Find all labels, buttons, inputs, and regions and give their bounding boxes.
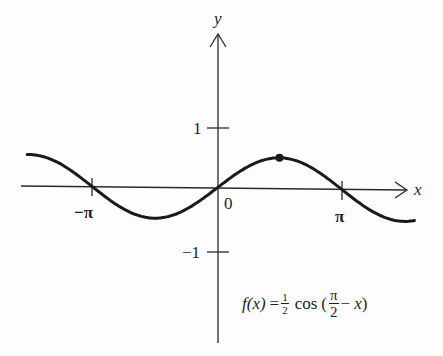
formula-close-paren: ) (362, 294, 368, 314)
formula-open-paren: ( (321, 294, 327, 314)
y-axis-label: y (212, 9, 222, 28)
formula-coefficient: 1 2 (281, 292, 289, 316)
formula-argument-fraction: π 2 (329, 288, 339, 320)
formula-equals: = (270, 294, 280, 314)
x-axis-label: x (413, 180, 422, 199)
arg-numerator: π (329, 288, 339, 304)
origin-label: 0 (224, 194, 233, 213)
formula-func: cos (295, 294, 318, 314)
formula-minus: − (341, 294, 351, 314)
maximum-point-marker (276, 154, 284, 162)
plot-canvas: y x 0 −π π 1 −1 (0, 0, 443, 356)
coef-numerator: 1 (281, 292, 289, 304)
chart-figure: y x 0 −π π 1 −1 f(x) = 1 2 cos ( π 2 − x… (0, 0, 443, 356)
x-tick-label-pi: π (335, 207, 345, 226)
y-tick-label-neg-1: −1 (182, 243, 200, 262)
x-tick-label-neg-pi: −π (74, 203, 94, 222)
y-tick-label-1: 1 (193, 119, 202, 138)
arg-denominator: 2 (330, 304, 338, 320)
coef-denominator: 2 (282, 304, 288, 316)
formula-var: x (354, 294, 362, 314)
function-formula: f(x) = 1 2 cos ( π 2 − x ) (242, 288, 367, 320)
formula-lhs: f(x) (242, 294, 266, 314)
